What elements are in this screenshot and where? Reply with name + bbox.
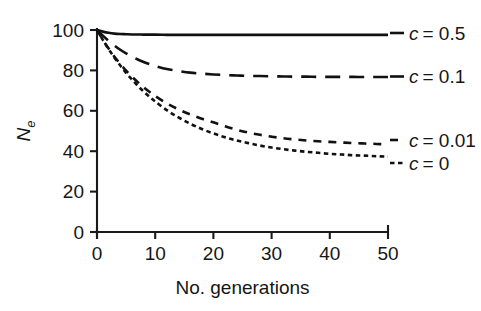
x-tick-label: 50 xyxy=(377,243,398,264)
y-tick-label: 100 xyxy=(52,20,84,41)
data-series xyxy=(97,30,388,157)
legend-label-3: c= 0 xyxy=(409,153,449,174)
y-tick-label: 20 xyxy=(63,181,84,202)
legend: c= 0.5c= 0.1c= 0.01c= 0 xyxy=(390,23,476,174)
legend-label-1: c= 0.1 xyxy=(409,66,465,87)
x-tick-label: 30 xyxy=(261,243,282,264)
y-tick-label: 40 xyxy=(63,141,84,162)
x-tick-label: 10 xyxy=(145,243,166,264)
y-tick-label: 0 xyxy=(73,222,84,243)
line-chart: 02040608010001020304050 c= 0.5c= 0.1c= 0… xyxy=(0,0,481,311)
axis-titles: No. generationsNe xyxy=(13,121,310,298)
series-line-3 xyxy=(97,30,388,157)
series-line-0 xyxy=(97,30,388,35)
x-tick-label: 0 xyxy=(92,243,103,264)
y-tick-label: 80 xyxy=(63,60,84,81)
x-tick-label: 20 xyxy=(203,243,224,264)
y-axis-title: Ne xyxy=(13,121,38,142)
series-line-1 xyxy=(97,30,388,77)
x-axis-title: No. generations xyxy=(175,277,309,298)
x-tick-label: 40 xyxy=(319,243,340,264)
figure-container: 02040608010001020304050 c= 0.5c= 0.1c= 0… xyxy=(0,0,481,311)
y-tick-label: 60 xyxy=(63,100,84,121)
axes xyxy=(90,29,388,239)
legend-label-2: c= 0.01 xyxy=(409,130,476,151)
legend-label-0: c= 0.5 xyxy=(409,23,465,44)
